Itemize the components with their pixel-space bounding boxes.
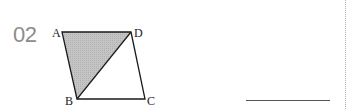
vertex-label-c: C	[147, 94, 155, 108]
answer-blank-line[interactable]	[246, 100, 330, 101]
shaded-triangle-abd	[62, 32, 131, 99]
vertex-label-a: A	[52, 26, 61, 40]
parallelogram-figure: A D B C	[0, 0, 349, 109]
vertex-label-d: D	[134, 26, 143, 40]
dotted-column-divider	[345, 0, 346, 109]
vertex-label-b: B	[65, 94, 73, 108]
